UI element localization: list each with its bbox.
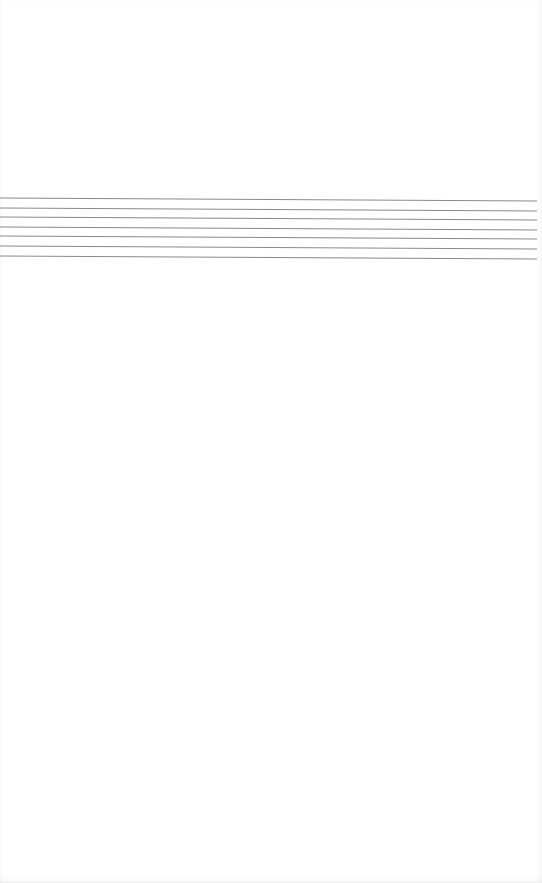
ruled-line xyxy=(0,217,537,220)
ruled-line xyxy=(0,246,537,249)
blank-document-page xyxy=(0,0,542,883)
ruled-line xyxy=(0,256,537,259)
ruled-line xyxy=(0,208,537,211)
ruled-line xyxy=(0,236,537,239)
ruled-lines xyxy=(0,196,538,266)
ruled-line xyxy=(0,198,537,201)
ruled-lines-block xyxy=(0,196,538,266)
ruled-line xyxy=(0,227,537,230)
